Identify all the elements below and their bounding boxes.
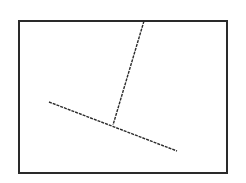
vertical-line (113, 21, 144, 125)
diagram-canvas (0, 0, 246, 183)
frame-rectangle (19, 21, 227, 173)
diagonal-line (49, 102, 177, 151)
